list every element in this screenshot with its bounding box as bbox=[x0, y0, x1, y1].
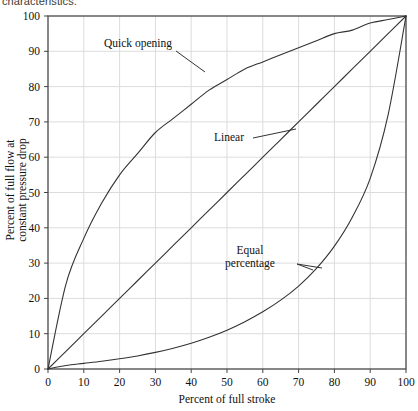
x-tick-label: 100 bbox=[397, 376, 415, 388]
y-tick-label: 80 bbox=[29, 81, 41, 93]
curve-label-linear: Linear bbox=[214, 131, 244, 143]
y-axis-title-line1: Percent of full flow at bbox=[4, 139, 16, 241]
y-tick-label: 90 bbox=[29, 45, 41, 57]
curve-label-equal-percentage-line2: percentage bbox=[225, 257, 275, 270]
x-tick-label: 50 bbox=[221, 376, 233, 388]
y-tick-label: 10 bbox=[29, 328, 41, 340]
y-tick-label: 50 bbox=[29, 187, 41, 199]
figure-container: characteristics. 0102030405060708090100 … bbox=[0, 0, 418, 411]
x-tick-label: 10 bbox=[78, 376, 90, 388]
x-tick-label: 0 bbox=[45, 376, 51, 388]
x-tick-label: 60 bbox=[257, 376, 269, 388]
curve-label-quick-opening: Quick opening bbox=[104, 37, 172, 50]
y-tick-label: 30 bbox=[29, 257, 41, 269]
curve-label-equal-percentage-line1: Equal bbox=[237, 244, 264, 257]
x-tick-label: 90 bbox=[364, 376, 376, 388]
x-tick-label: 20 bbox=[114, 376, 126, 388]
x-tick-label: 80 bbox=[329, 376, 341, 388]
x-tick-label: 30 bbox=[150, 376, 162, 388]
x-tick-label: 70 bbox=[293, 376, 305, 388]
y-tick-label: 100 bbox=[23, 10, 41, 22]
x-axis-title: Percent of full stroke bbox=[179, 393, 276, 405]
x-axis-tick-labels: 0102030405060708090100 bbox=[45, 376, 415, 388]
y-tick-label: 0 bbox=[34, 363, 40, 375]
y-tick-label: 70 bbox=[29, 116, 41, 128]
y-tick-label: 60 bbox=[29, 151, 41, 163]
valve-characteristic-chart: 0102030405060708090100 01020304050607080… bbox=[0, 0, 418, 411]
y-tick-label: 20 bbox=[29, 292, 41, 304]
y-axis-title-line2: constant pressure drop bbox=[16, 138, 29, 242]
x-tick-label: 40 bbox=[185, 376, 197, 388]
y-tick-label: 40 bbox=[29, 222, 41, 234]
